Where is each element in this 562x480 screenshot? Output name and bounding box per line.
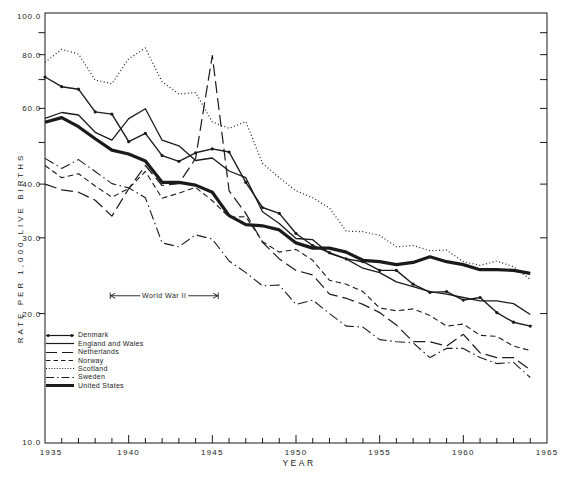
x-tick-label: 1960 [452,448,475,457]
y-tick-label: 100.0 [17,12,41,21]
legend-label: Scotland [78,365,108,373]
legend-swatch-united-states [46,381,74,390]
legend-label: Denmark [78,331,109,339]
y-tick-label: 10.0 [22,438,41,447]
scanned-figure-page: 100.080.060.040.030.020.010.019351940194… [0,0,562,480]
series-line-united-states [45,118,530,274]
series-line-netherlands [45,56,530,370]
y-tick-label: 40.0 [22,180,41,189]
series-lines [45,48,530,378]
infant-mortality-trend-chart: 100.080.060.040.030.020.010.019351940194… [0,0,562,480]
x-tick-label: 1940 [117,448,140,457]
y-tick-label: 80.0 [22,51,41,60]
wwii-annotation-label: World War II [142,292,187,299]
legend-label: United States [78,382,124,390]
legend-label: Netherlands [78,348,119,356]
legend-item-united-states: United States [46,382,144,390]
chart-generated-content: 100.080.060.040.030.020.010.019351940194… [17,12,558,457]
y-tick-label: 60.0 [22,104,41,113]
legend: DenmarkEngland and WalesNetherlandsNorwa… [46,331,144,390]
legend-label: Norway [78,357,104,365]
legend-label: England and Wales [78,340,144,348]
y-tick-label: 20.0 [22,310,41,319]
series-line-england-and-wales [45,109,530,315]
legend-label: Sweden [78,373,105,381]
x-axis-title: YEAR [282,458,315,468]
x-tick-labels: 1935194019451950195519601965 [40,448,559,457]
series-line-scotland [45,48,530,280]
x-tick-label: 1965 [536,448,559,457]
y-axis-title: RATE PER 1,000 LIVE BIRTHS [16,153,25,344]
wwii-annotation: World War II [110,292,218,299]
x-tick-label: 1935 [40,448,63,457]
denmark-markers [43,75,532,327]
y-tick-label: 30.0 [22,234,41,243]
x-tick-label: 1950 [285,448,308,457]
x-tick-label: 1955 [368,448,391,457]
series-line-denmark [45,77,530,326]
x-tick-label: 1945 [201,448,224,457]
